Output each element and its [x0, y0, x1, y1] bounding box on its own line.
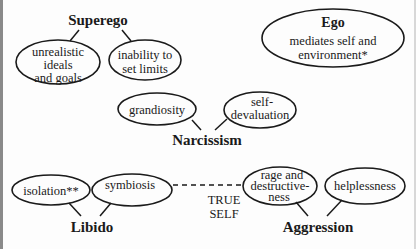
node-text-line: unrealistic: [32, 45, 85, 59]
node-text-line: ideals: [43, 58, 72, 72]
node-text-line: isolation**: [23, 184, 79, 198]
node-text-line: helplessness: [334, 179, 396, 193]
node-isolation: isolation**: [12, 175, 90, 205]
node-grandiosity: grandiosity: [118, 93, 196, 125]
narcissism-label: Narcissism: [172, 132, 242, 148]
node-helplessness: helplessness: [325, 168, 405, 204]
aggression-group: rage and destructive- ness helplessness …: [243, 167, 405, 235]
libido-connector-right: [100, 203, 111, 216]
aggression-connector-right: [327, 200, 342, 216]
diagram-svg: Superego unrealistic ideals and goals in…: [0, 0, 416, 249]
node-inability-limits: inability to set limits: [109, 40, 181, 80]
narcissism-group: grandiosity self- devaluation Narcissism: [118, 92, 296, 148]
aggression-label: Aggression: [283, 219, 354, 235]
node-symbiosis: symbiosis: [92, 174, 172, 206]
narcissism-connector-left: [192, 120, 201, 130]
node-unrealistic-ideals: unrealistic ideals and goals: [16, 40, 100, 85]
node-text-line: inability to: [118, 48, 173, 62]
node-text-line: grandiosity: [129, 103, 186, 117]
libido-label: Libido: [71, 219, 114, 235]
ego-group: Ego mediates self and environment*: [262, 9, 404, 67]
aggression-connector-left: [296, 202, 308, 216]
true-self-text-line: TRUE: [208, 193, 241, 207]
ego-label: Ego: [321, 15, 344, 30]
ego-text-line: environment*: [298, 48, 367, 62]
superego-label: Superego: [68, 12, 128, 28]
node-text-line: set limits: [122, 62, 168, 76]
node-rage-destructiveness: rage and destructive- ness: [243, 167, 317, 205]
node-self-devaluation: self- devaluation: [224, 92, 296, 128]
node-text-line: and goals: [34, 71, 82, 85]
true-self-text-line: SELF: [209, 207, 238, 221]
libido-connector-left: [69, 203, 81, 216]
ego-text-line: mediates self and: [290, 34, 378, 48]
libido-group: isolation** symbiosis Libido: [12, 174, 172, 235]
narcissism-connector-right: [215, 119, 227, 130]
diagram-canvas: Superego unrealistic ideals and goals in…: [0, 0, 416, 249]
superego-connector-right: [122, 30, 131, 41]
node-text-line: devaluation: [231, 108, 290, 122]
node-text-line: self-: [251, 95, 273, 109]
true-self-group: TRUE SELF: [173, 185, 243, 221]
superego-group: Superego unrealistic ideals and goals in…: [16, 12, 181, 85]
node-text-line: ness: [268, 190, 290, 204]
superego-connector-left: [70, 30, 79, 41]
node-text-line: symbiosis: [105, 178, 155, 192]
